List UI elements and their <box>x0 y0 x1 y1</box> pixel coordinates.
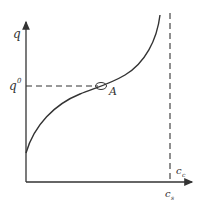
isotherm-curve <box>26 15 160 153</box>
q0-label: q <box>9 79 17 93</box>
q0-superscript: 0 <box>17 77 22 85</box>
cc-subscript: c <box>182 171 186 178</box>
y-axis-label: q <box>13 27 21 41</box>
x-axis-subscript: s <box>171 194 174 201</box>
point-a-label: A <box>108 85 117 98</box>
diagram-canvas: q q 0 A c c c s <box>0 0 202 206</box>
